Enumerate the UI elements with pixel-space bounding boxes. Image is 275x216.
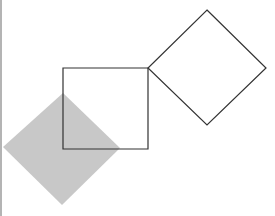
outline-diamond (148, 10, 266, 125)
geometry-diagram (0, 0, 275, 216)
